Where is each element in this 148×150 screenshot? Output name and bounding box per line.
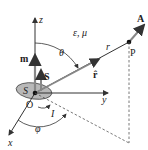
theta-label: θ bbox=[59, 47, 64, 58]
diagram-canvas: z y x ε, μ θ φ m S r̂ A r P S O I bbox=[0, 0, 148, 150]
y-label: y bbox=[101, 94, 107, 105]
magnetic-dipole-diagram: z y x ε, μ θ φ m S r̂ A r P S O I bbox=[0, 0, 148, 150]
surface-label: S bbox=[23, 85, 28, 96]
m-label: m bbox=[20, 53, 29, 64]
medium-label: ε, μ bbox=[73, 27, 87, 38]
current-arrow bbox=[38, 105, 50, 108]
origin-label: O bbox=[26, 99, 33, 110]
x-label: x bbox=[7, 137, 13, 148]
a-vector bbox=[129, 25, 144, 42]
s-vector-label: S bbox=[44, 71, 50, 82]
a-label: A bbox=[137, 13, 145, 24]
theta-arc bbox=[35, 43, 78, 68]
phi-arc bbox=[18, 114, 66, 127]
r-hat-label: r̂ bbox=[93, 69, 98, 80]
projection-floor bbox=[35, 93, 129, 143]
r-label: r bbox=[106, 41, 110, 52]
p-label: P bbox=[130, 47, 136, 58]
phi-label: φ bbox=[35, 123, 41, 134]
z-label: z bbox=[38, 14, 43, 25]
current-label: I bbox=[50, 108, 55, 119]
